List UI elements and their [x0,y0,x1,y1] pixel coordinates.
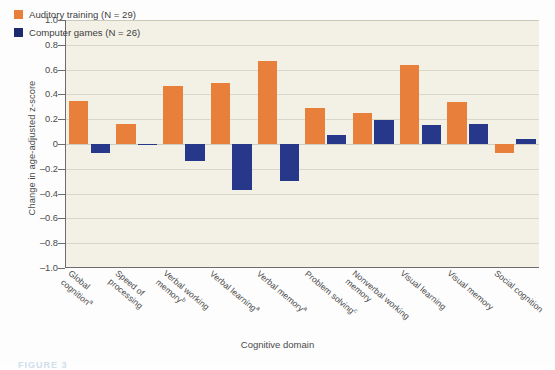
y-tick-mark [58,119,65,120]
y-tick-label: –0.8 [40,238,58,248]
y-tick-label: 0.2 [45,114,58,124]
bar-computer-games [232,144,251,190]
y-tick-label: 0.4 [45,89,58,99]
y-tick-mark [58,268,65,269]
bar-series-container [66,20,539,267]
x-tick-label: Verbal workingmemoryb [153,268,211,321]
bar-computer-games [327,135,346,144]
bar-computer-games [516,139,535,144]
x-tick-label: Verbal memorya [255,268,309,316]
bar-auditory-training [447,102,466,144]
y-axis-tick-labels: 1.00.80.60.40.20–0.2–0.4–0.6–0.8–1.0 [24,20,58,268]
x-tick-label: Globalcognitiona [58,268,101,309]
y-tick-mark [58,70,65,71]
legend-swatch-icon-auditory-training [14,10,23,19]
bar-group [444,20,491,267]
bar-auditory-training [353,113,372,144]
bar-auditory-training [305,108,324,144]
bar-computer-games [422,125,441,144]
bar-group [492,20,539,267]
x-tick-label: Verbal learninga [207,268,261,316]
bar-auditory-training [163,86,182,144]
bar-computer-games [469,124,488,144]
x-axis-title: Cognitive domain [0,339,555,350]
bar-auditory-training [69,101,88,144]
legend-item-auditory-training: Auditory training (N = 29) [14,9,140,20]
bar-computer-games [185,144,204,161]
bar-computer-games [91,144,110,153]
legend-label-auditory-training: Auditory training (N = 29) [29,9,136,20]
bar-group [397,20,444,267]
legend-swatch-icon-computer-games [14,28,23,37]
legend-label-computer-games: Computer games (N = 26) [29,27,140,38]
y-tick-label: –0.4 [40,189,58,199]
y-tick-label: 0.6 [45,65,58,75]
bar-auditory-training [400,65,419,144]
legend-item-computer-games: Computer games (N = 26) [14,27,140,38]
y-tick-label: –1.0 [40,263,58,273]
bar-group [161,20,208,267]
x-tick-label: Visual learning [398,268,448,312]
y-tick-mark [58,243,65,244]
bar-group [255,20,302,267]
x-axis-category-labels: GlobalcognitionaSpeed ofprocessingVerbal… [65,268,539,348]
plot-area [65,20,539,268]
bar-group [350,20,397,267]
bar-auditory-training [116,124,135,144]
x-tick-label: Social cognition [492,268,545,315]
bar-computer-games [374,120,393,144]
bar-group [113,20,160,267]
y-tick-mark [58,94,65,95]
y-tick-mark [58,194,65,195]
y-tick-mark [58,169,65,170]
figure-caption: FIGURE 3 [18,360,68,370]
x-tick-label: Visual memory [445,268,495,313]
y-tick-label: –0.2 [40,164,58,174]
bar-auditory-training [211,83,230,144]
y-tick-mark [58,144,65,145]
bar-auditory-training [258,61,277,144]
bar-group [303,20,350,267]
y-tick-mark [58,218,65,219]
x-tick-label: Speed ofprocessing [106,268,152,311]
y-tick-label: –0.6 [40,213,58,223]
bar-group [208,20,255,267]
bar-auditory-training [495,144,514,153]
bar-group [66,20,113,267]
legend: Auditory training (N = 29) Computer game… [14,9,140,45]
bar-computer-games [280,144,299,181]
bar-computer-games [138,144,157,145]
